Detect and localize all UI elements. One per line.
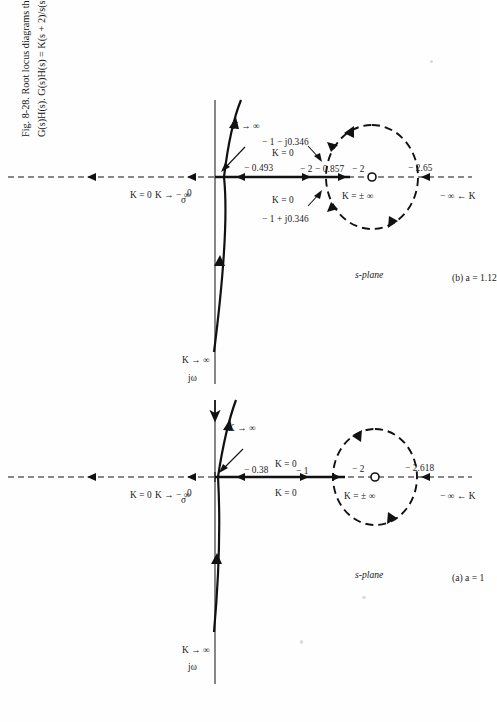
k-inf-circle-label-a: K = ± ∞: [344, 492, 375, 501]
k-to-neg-inf-label-a: K → − ∞: [155, 491, 191, 500]
k-zero-label-a-1: K = 0: [275, 489, 297, 498]
breakaway-label-a: − 0.38: [244, 466, 268, 475]
branch-arrowheads-b: [214, 117, 239, 266]
root-locus-diagram-b: σ 0 − 0.493 − 1 + j0.346 − 1 − j0.346 − …: [0, 92, 480, 392]
k-to-neg-inf-bottom-label-b: − ∞ ← K: [440, 192, 476, 201]
pole-double-label-a: − 1: [296, 467, 309, 476]
k-zero-label-a-2: K = 0: [275, 460, 297, 469]
root-locus-diagram-a: σ 0 − 0.38 − 1 − 2 − 2.618 K = 0 K = 0 K…: [0, 392, 480, 692]
k-zero-label-a-3: K = 0: [130, 491, 152, 500]
breakaway-label-b: − 0.493: [244, 164, 273, 173]
scan-speckle: [300, 640, 303, 644]
k-inf-circle-label-b: K = ± ∞: [342, 192, 373, 201]
scan-speckle: [362, 596, 366, 599]
locus-branches-a: [214, 400, 236, 632]
zero-label-a: − 2: [352, 465, 365, 474]
caption-line-2: G(s)H(s). G(s)H(s) = K(s + 2)/s(s² + 2s …: [34, 0, 50, 137]
root-locus-plot-b-svg: [0, 92, 480, 392]
k-to-neg-inf-bottom-label-a: − ∞ ← K: [440, 492, 476, 501]
subcaption-a: (a) a = 1: [452, 572, 484, 583]
pole-upper-label-b: − 1 + j0.346: [262, 215, 309, 224]
k-zero-label-b-1: K = 0: [272, 196, 294, 205]
k-zero-label-b-3: K = 0: [130, 191, 152, 200]
subcaption-b: (b) a = 1.12: [452, 272, 497, 283]
axis-label-jomega-b: jω: [188, 374, 197, 383]
k-to-inf-right-label-a: K → ∞: [228, 424, 256, 433]
zero-marker-b: [368, 173, 376, 181]
locus-branches-b: [214, 100, 241, 352]
zero-label-b: − 2: [352, 165, 365, 174]
breakin-label-b: − 2.65: [408, 164, 432, 173]
s-plane-label-a: s-plane: [355, 569, 383, 580]
figure-caption: Fig. 8-28. Root locus diagrams that show…: [18, 0, 50, 137]
k-to-neg-inf-label-b: K → − ∞: [155, 191, 191, 200]
scan-speckle: [430, 60, 433, 63]
caption-line-1: Fig. 8-28. Root locus diagrams that show…: [18, 0, 34, 137]
zero-marker-a: [371, 473, 379, 481]
branch-arrowheads-a: [211, 419, 233, 564]
k-to-inf-left-label-b: K → ∞: [182, 356, 210, 365]
s-plane-label-b: s-plane: [355, 269, 383, 280]
breakin-label-a: − 2.618: [405, 464, 434, 473]
k-to-inf-left-label-a: K → ∞: [182, 646, 210, 655]
k-to-inf-right-label-b: K → ∞: [232, 122, 260, 131]
k-zero-label-b-2: K = 0: [272, 149, 294, 158]
pole-lower-label-b: − 1 − j0.346: [262, 138, 309, 147]
axis-label-jomega-a: jω: [188, 663, 197, 672]
root-locus-plot-a-svg: [0, 392, 480, 692]
breakin-inner-label-b: − 2 − 0.857: [300, 165, 344, 174]
